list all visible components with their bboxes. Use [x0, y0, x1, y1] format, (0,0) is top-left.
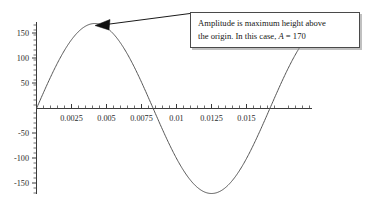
callout-leader-line: [106, 14, 190, 25]
callout-line2-prefix: the origin. In this case,: [198, 31, 278, 41]
amplitude-sine-figure: 150 100 50 -50 -100 -150 0.0025 0.005 0.…: [0, 0, 375, 201]
y-tick-label-minus-150: -150: [14, 179, 29, 188]
x-axis-major-ticks: [72, 104, 247, 109]
y-axis-major-ticks: [32, 33, 37, 183]
callout-text-line-2: the origin. In this case, A = 170: [198, 30, 353, 43]
callout-text-line-1: Amplitude is maximum height above: [198, 17, 353, 30]
x-tick-label-0-0125: 0.0125: [200, 114, 223, 123]
x-tick-label-0-0025: 0.0025: [60, 114, 83, 123]
x-tick-label-0-01: 0.01: [169, 114, 183, 123]
x-tick-label-0-0075: 0.0075: [130, 114, 153, 123]
y-tick-label-150: 150: [17, 29, 29, 38]
x-tick-label-0-005: 0.005: [97, 114, 115, 123]
callout-line2-suffix: = 170: [284, 31, 306, 41]
y-tick-label-50: 50: [21, 79, 29, 88]
y-tick-label-minus-50: -50: [18, 129, 29, 138]
x-tick-label-0-015: 0.015: [237, 114, 255, 123]
amplitude-callout-box: Amplitude is maximum height above the or…: [190, 12, 360, 48]
y-tick-label-minus-100: -100: [14, 154, 29, 163]
callout-arrow-icon: [95, 20, 110, 31]
y-tick-label-100: 100: [17, 54, 29, 63]
